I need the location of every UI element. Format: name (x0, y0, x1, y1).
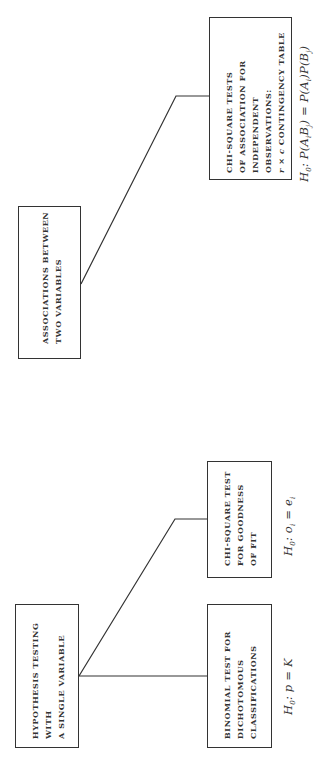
binomial-test-box: BINOMIAL TEST FOR DICHOTOMOUS CLASSIFICA… (207, 604, 272, 748)
chi-square-goodness-of-fit-box: CHI-SQUARE TEST FOR GOODNESS OF FIT (207, 461, 272, 578)
box-line: OF ASSOCIATION FOR (236, 32, 249, 173)
box-line: BINOMIAL TEST FOR (221, 631, 234, 739)
box-line: CHI-SQUARE TESTS (223, 32, 236, 173)
connector-associations-to-chi-square-tests (81, 96, 209, 284)
box-line: ASSOCIATIONS BETWEEN (39, 212, 52, 344)
box-line: HYPOTHESIS TESTING (29, 623, 42, 739)
binomial-null-hypothesis: H0: p = K (281, 658, 297, 715)
box-line: CHI-SQUARE TEST (221, 471, 234, 566)
box-line: A SINGLE VARIABLE (55, 623, 68, 739)
box-line: OF FIT (247, 471, 260, 566)
associations-between-two-variables-box: ASSOCIATIONS BETWEEN TWO VARIABLES (18, 206, 81, 359)
box-line: OBSERVATIONS: (262, 32, 275, 173)
box-line: TWO VARIABLES (52, 212, 65, 344)
chi-square-tests-of-association-box: CHI-SQUARE TESTS OF ASSOCIATION FOR INDE… (209, 17, 292, 180)
goodness-of-fit-null-hypothesis: H0: oi = ei (281, 497, 297, 556)
box-line: DICHOTOMOUS (234, 631, 247, 739)
box-line: r × c CONTINGENCY TABLE (275, 32, 288, 173)
box-line: WITH (42, 623, 55, 739)
box-line: FOR GOODNESS (234, 471, 247, 566)
association-null-hypothesis: H0: P(AiBj) = P(Ai)P(Bj) (297, 46, 313, 182)
hypothesis-testing-single-variable-box: HYPOTHESIS TESTING WITH A SINGLE VARIABL… (15, 604, 79, 748)
connector-single-variable-to-goodness-of-fit (79, 519, 207, 676)
box-line: CLASSIFICATIONS (247, 631, 260, 739)
box-line: INDEPENDENT (249, 32, 262, 173)
